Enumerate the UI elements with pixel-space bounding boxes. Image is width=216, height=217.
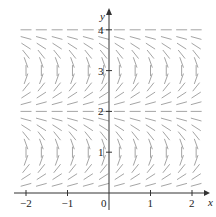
x-tick-label: −2 bbox=[20, 197, 32, 209]
slope-segment bbox=[21, 183, 32, 186]
slope-segment bbox=[68, 125, 77, 131]
slope-segment bbox=[98, 102, 109, 105]
slope-segment bbox=[176, 102, 187, 105]
slope-segment bbox=[177, 92, 186, 98]
slope-segment bbox=[193, 50, 200, 59]
x-tick-label: 1 bbox=[148, 197, 154, 209]
slope-segment bbox=[115, 43, 124, 49]
slope-segment bbox=[85, 83, 92, 92]
slope-segment bbox=[115, 125, 124, 131]
slope-segment bbox=[163, 164, 170, 173]
slope-segment bbox=[83, 118, 94, 121]
y-tick-label: 4 bbox=[98, 24, 104, 36]
slope-segment bbox=[176, 118, 187, 121]
slope-segment bbox=[54, 50, 61, 59]
slope-segment bbox=[99, 43, 108, 49]
slope-segment bbox=[36, 37, 47, 40]
slope-segment bbox=[177, 174, 186, 180]
slope-segment bbox=[100, 132, 107, 141]
slope-segment bbox=[84, 125, 93, 131]
slope-segment bbox=[23, 83, 30, 92]
slope-segment bbox=[191, 37, 202, 40]
slope-segments bbox=[21, 30, 202, 186]
slope-segment bbox=[21, 174, 30, 180]
slope-segment bbox=[54, 83, 61, 92]
slope-segment bbox=[145, 118, 156, 121]
slope-segment bbox=[146, 174, 155, 180]
slope-segment bbox=[146, 92, 155, 98]
slope-segment bbox=[84, 43, 93, 49]
slope-segment bbox=[53, 92, 62, 98]
slope-segment bbox=[161, 118, 172, 121]
slope-segment bbox=[53, 125, 62, 131]
slope-segment bbox=[99, 125, 108, 131]
slope-segment bbox=[145, 102, 156, 105]
slope-segment bbox=[52, 37, 63, 40]
slope-segment bbox=[36, 183, 47, 186]
slope-segment bbox=[100, 83, 107, 92]
slope-segment bbox=[191, 102, 202, 105]
slope-segment bbox=[192, 174, 201, 180]
slope-segment bbox=[98, 37, 109, 40]
slope-segment bbox=[53, 174, 62, 180]
slope-segment bbox=[176, 37, 187, 40]
slope-segment bbox=[162, 43, 171, 49]
slope-segment bbox=[68, 43, 77, 49]
slope-segment bbox=[178, 164, 185, 173]
slope-segment bbox=[147, 50, 154, 59]
slope-segment bbox=[147, 132, 154, 141]
slope-segment bbox=[178, 50, 185, 59]
slope-segment bbox=[69, 83, 76, 92]
slope-segment bbox=[37, 92, 46, 98]
slope-segment bbox=[83, 102, 94, 105]
slope-segment bbox=[132, 83, 139, 92]
slope-segment bbox=[177, 43, 186, 49]
y-tick-label: 2 bbox=[98, 105, 104, 117]
slope-segment bbox=[21, 43, 30, 49]
slope-segment bbox=[100, 164, 107, 173]
x-axis-label: x bbox=[207, 196, 213, 208]
slope-segment bbox=[37, 43, 46, 49]
x-tick-label: 2 bbox=[189, 197, 195, 209]
slope-segment bbox=[132, 50, 139, 59]
slope-segment bbox=[83, 183, 94, 186]
slope-segment bbox=[145, 37, 156, 40]
slope-segment bbox=[84, 92, 93, 98]
slope-segment bbox=[131, 174, 140, 180]
slope-segment bbox=[115, 174, 124, 180]
slope-segment bbox=[69, 164, 76, 173]
slope-segment bbox=[162, 125, 171, 131]
slope-segment bbox=[21, 92, 30, 98]
slope-segment bbox=[83, 37, 94, 40]
slope-segment bbox=[23, 132, 30, 141]
slope-segment bbox=[193, 132, 200, 141]
slope-segment bbox=[85, 132, 92, 141]
slope-segment bbox=[193, 83, 200, 92]
slope-segment bbox=[37, 125, 46, 131]
slope-segment bbox=[99, 92, 108, 98]
slope-segment bbox=[52, 183, 63, 186]
slope-field-chart: −2−10121234 x y bbox=[0, 0, 216, 217]
slope-segment bbox=[37, 174, 46, 180]
slope-segment bbox=[146, 43, 155, 49]
slope-segment bbox=[162, 174, 171, 180]
slope-segment bbox=[161, 102, 172, 105]
slope-segment bbox=[146, 125, 155, 131]
slope-segment bbox=[163, 83, 170, 92]
y-tick-label: 3 bbox=[98, 65, 104, 77]
slope-segment bbox=[130, 183, 141, 186]
slope-segment bbox=[53, 43, 62, 49]
slope-segment bbox=[131, 92, 140, 98]
slope-segment bbox=[38, 50, 45, 59]
slope-segment bbox=[132, 164, 139, 173]
slope-segment bbox=[100, 50, 107, 59]
slope-segment bbox=[21, 102, 32, 105]
slope-segment bbox=[116, 132, 123, 141]
x-tick-label: 0 bbox=[101, 197, 107, 209]
slope-segment bbox=[21, 118, 32, 121]
slope-segment bbox=[21, 125, 30, 131]
slope-segment bbox=[36, 102, 47, 105]
slope-segment bbox=[130, 102, 141, 105]
slope-segment bbox=[85, 164, 92, 173]
slope-segment bbox=[191, 183, 202, 186]
